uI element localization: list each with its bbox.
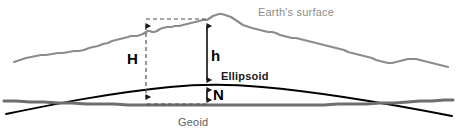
ellipsoid-line [6,85,452,116]
diagram-canvas [0,0,457,135]
geodesy-diagram: Earth's surface Ellipsoid Geoid H h N [0,0,457,135]
earth-surface-label: Earth's surface [258,7,334,18]
geoid-undulation-label: N [213,87,224,102]
ellipsoidal-height-label: h [211,48,220,63]
orthometric-height-label: H [127,51,138,66]
geoid-label: Geoid [178,117,208,128]
ellipsoid-label: Ellipsoid [221,71,269,82]
earth-surface-line [14,14,448,67]
